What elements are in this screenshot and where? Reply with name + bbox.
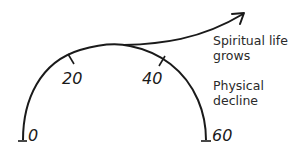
physical-label-line2: decline [213,93,264,108]
tick-20 [68,54,74,64]
tick-label-0: 0 [28,126,38,145]
tick-label-20: 20 [62,69,82,88]
spiritual-label-line1: Spiritual life [213,33,288,48]
physical-label-line1: Physical [213,78,264,93]
tick-label-60: 60 [212,126,232,145]
physical-label: Physical decline [213,78,264,108]
life-arc-diagram: 0 20 40 60 [0,0,293,154]
tick-label-40: 40 [142,69,162,88]
spiritual-label-line2: grows [213,48,288,63]
spiritual-label: Spiritual life grows [213,33,288,63]
physical-arc [23,44,206,140]
